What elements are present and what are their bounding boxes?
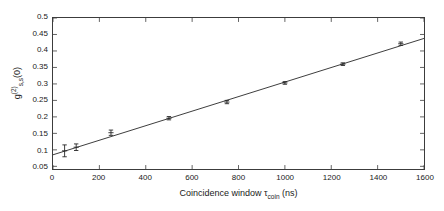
x-tick-label: 800 (232, 174, 245, 182)
x-axis-label-subscript: coin (268, 193, 280, 200)
x-axis-label-unit: (ns) (282, 188, 298, 198)
y-tick-label: 0.5 (37, 13, 48, 21)
data-point (62, 145, 67, 157)
y-tick-label: 0.45 (32, 30, 48, 38)
x-tick-label: 1600 (416, 174, 434, 182)
x-axis-label-text: Coincidence window (179, 188, 261, 198)
x-tick-label: 1000 (276, 174, 294, 182)
y-tick-label: 0.4 (37, 46, 48, 54)
figure-container: g(2)s,s(0) 0.050.10.150.20.250.30.350.40… (0, 0, 444, 211)
x-tick-label: 1400 (369, 174, 387, 182)
data-point (108, 130, 113, 135)
data-point (74, 144, 79, 151)
data-layer (53, 18, 424, 169)
y-tick-label: 0.05 (32, 163, 48, 171)
y-tick-label: 0.2 (37, 113, 48, 121)
data-point (282, 82, 287, 85)
x-axis-label: Coincidence window τcoin (ns) (52, 188, 425, 200)
x-tick-label: 1200 (323, 174, 341, 182)
data-points (62, 42, 403, 157)
y-tick-label: 0.3 (37, 80, 48, 88)
x-tick-label: 600 (185, 174, 198, 182)
x-axis-tick-labels: 02004006008001000120014001600 (52, 174, 425, 186)
x-tick-label: 0 (50, 174, 54, 182)
plot-area (52, 17, 425, 170)
y-tick-label: 0.1 (37, 147, 48, 155)
x-tick-label: 400 (139, 174, 152, 182)
fit-line (53, 38, 424, 154)
y-axis-tick-labels: 0.050.10.150.20.250.30.350.40.450.5 (0, 17, 48, 170)
y-tick-label: 0.15 (32, 130, 48, 138)
y-tick-label: 0.35 (32, 63, 48, 71)
axis-tick-marks (53, 18, 424, 169)
data-point (340, 63, 345, 66)
x-tick-label: 200 (92, 174, 105, 182)
y-tick-label: 0.25 (32, 96, 48, 104)
